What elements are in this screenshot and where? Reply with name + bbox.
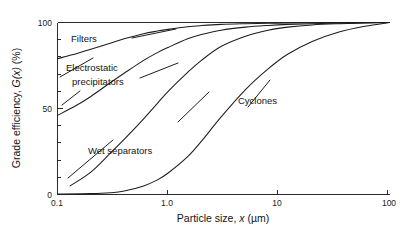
leader-line-esp-right [140,63,178,78]
chart-canvas: Filters Electrostatic precipitators Wet … [0,0,409,230]
grade-efficiency-figure: Filters Electrostatic precipitators Wet … [0,0,409,230]
y-tick-label-50: 50 [43,104,53,114]
x-tick-label-100: 100 [382,198,396,208]
x-tick-label-10: 10 [272,198,282,208]
y-axis-title-var: G(x) [10,67,22,87]
x-axis-title: Particle size, x (µm) [177,212,269,224]
y-tick-label-100: 100 [38,18,52,28]
curve-label-wet-separators: Wet separators [88,145,152,156]
y-axis-title-pre: Grade efficiency, [10,87,22,168]
x-tick-label-0-1: 0.1 [51,198,63,208]
x-axis-title-post: (µm) [244,212,269,224]
y-axis-title: Grade efficiency, G(x) (%) [10,48,22,168]
curve-cyclones [58,23,390,194]
curve-label-esp-line1: Electrostatic [66,62,118,73]
curve-filters [58,23,390,59]
curve-label-cyclones: Cyclones [238,95,277,106]
curve-label-filters: Filters [71,33,97,44]
x-axis-title-pre: Particle size, [177,212,239,224]
curve-label-esp-line2: precipitators [72,76,124,87]
y-axis-title-post: (%) [10,48,22,67]
leader-line-esp [62,91,80,105]
leader-line-filters-right [132,29,176,38]
leader-line-wet-right [178,92,209,122]
x-tick-label-1-0: 1.0 [161,198,173,208]
curve-wet-separators [70,23,389,186]
